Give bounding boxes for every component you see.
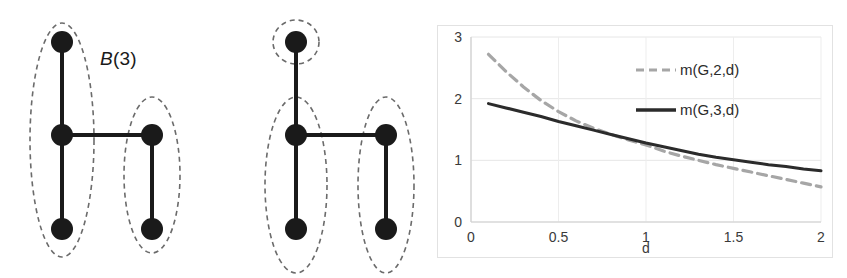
x-axis-tick-label: 1.5 (724, 229, 744, 245)
panel-label-b3-suffix: (3) (113, 48, 137, 69)
y-axis-tick-label: 1 (454, 152, 462, 168)
legend-label-1: m(G,3,d) (680, 101, 739, 118)
line-chart: 012300.511.52dm(G,2,d)m(G,3,d) (438, 26, 832, 257)
graph-diagram-b3 (0, 0, 240, 278)
x-axis-tick-label: 2 (817, 229, 825, 245)
panel-label-b3-prefix: B (100, 48, 113, 69)
chart-panel: 012300.511.52dm(G,2,d)m(G,3,d) (430, 0, 847, 278)
x-axis-title: d (642, 240, 650, 256)
panel-label-b3: B(3) (100, 48, 137, 70)
vertex-bottom-left (51, 218, 73, 240)
y-axis-tick-label: 2 (454, 91, 462, 107)
chart-frame: 012300.511.52dm(G,2,d)m(G,3,d) (437, 25, 833, 258)
vertex-bottom-right (141, 218, 163, 240)
diagram-panel-b3: B(3) (0, 0, 240, 278)
vertex-bottom-right (375, 218, 397, 240)
vertex-top-left (51, 31, 73, 53)
y-axis-tick-label: 0 (454, 214, 462, 230)
vertex-mid-left (51, 124, 73, 146)
x-axis-tick-label: 0 (467, 229, 475, 245)
vertex-mid-right (141, 124, 163, 146)
x-axis-tick-label: 0.5 (549, 229, 569, 245)
vertex-mid-right (375, 124, 397, 146)
figure-root: B(3) B(2) 012300.511.52dm(G,2,d)m(G,3,d) (0, 0, 847, 278)
diagram-panel-b2: B(2) (240, 0, 435, 278)
vertex-mid-left (285, 124, 307, 146)
legend-label-0: m(G,2,d) (680, 61, 739, 78)
y-axis-tick-label: 3 (454, 29, 462, 45)
vertex-top-left (285, 31, 307, 53)
graph-diagram-b2 (240, 0, 435, 278)
vertex-bottom-left (285, 218, 307, 240)
